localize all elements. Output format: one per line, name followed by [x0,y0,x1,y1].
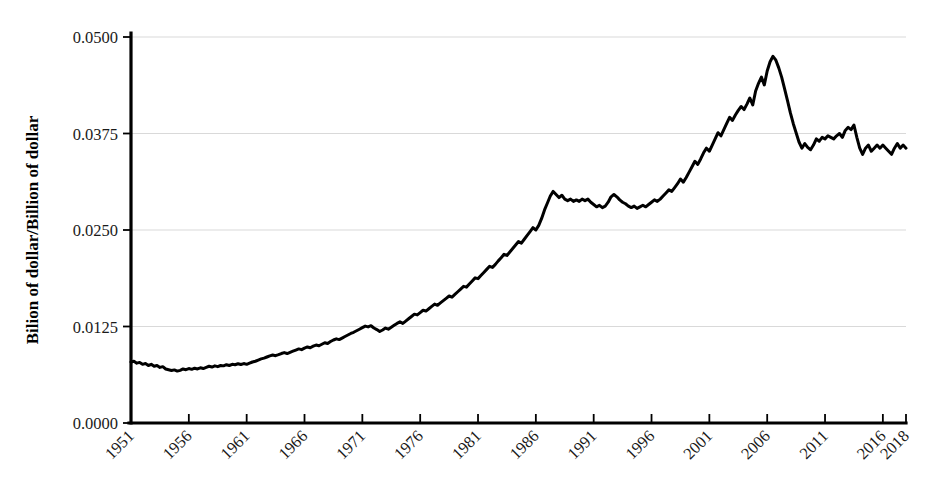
chart-figure: 0.00000.01250.02500.03750.0500 195119561… [0,0,937,496]
y-tick-label: 0.0250 [73,221,118,240]
y-tick-label: 0.0500 [73,28,118,47]
y-tick-label: 0.0125 [73,318,118,337]
y-tick-label: 0.0000 [73,414,118,433]
line-chart: 0.00000.01250.02500.03750.0500 195119561… [0,0,937,496]
y-axis-label: Bilion of dollar/Billion of dollar [23,115,42,344]
y-tick-label: 0.0375 [73,125,118,144]
